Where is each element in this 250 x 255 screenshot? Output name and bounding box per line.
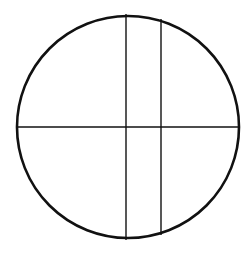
divided-circle-diagram: [0, 0, 250, 255]
